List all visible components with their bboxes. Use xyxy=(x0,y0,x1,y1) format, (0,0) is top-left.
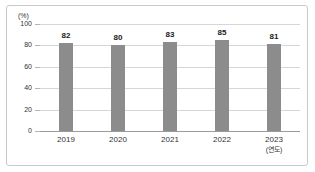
bar-value-label: 82 xyxy=(46,31,86,40)
bar-value-label: 80 xyxy=(98,33,138,42)
y-axis-tick-mark xyxy=(35,110,40,111)
bar xyxy=(111,45,125,131)
y-axis-tick-label: 0 xyxy=(0,127,32,135)
y-axis-tick-label: 40 xyxy=(0,84,32,92)
y-axis-tick-mark xyxy=(35,88,40,89)
x-axis-tick-label: 2023(연도) xyxy=(249,135,299,154)
bar-value-label: 83 xyxy=(150,30,190,39)
y-axis-tick-mark xyxy=(35,24,40,25)
x-axis-tick-label: 2019 xyxy=(41,135,91,145)
y-axis-tick-label: 100 xyxy=(0,20,32,28)
x-axis-tick-label: 2020 xyxy=(93,135,143,145)
y-axis-tick-label: 20 xyxy=(0,106,32,114)
x-axis-unit-label: (연도) xyxy=(249,145,299,154)
bar xyxy=(163,42,177,131)
bar xyxy=(59,43,73,131)
gridline xyxy=(40,24,300,25)
bar xyxy=(215,40,229,131)
y-axis-tick-mark xyxy=(35,131,40,132)
x-axis-tick-label: 2021 xyxy=(145,135,195,145)
chart-figure: (%) 020406080100822019802020832021852022… xyxy=(0,0,315,172)
y-axis-tick-mark xyxy=(35,45,40,46)
y-axis-tick-mark xyxy=(35,67,40,68)
axis-baseline xyxy=(40,131,300,132)
y-axis-tick-label: 60 xyxy=(0,63,32,71)
y-axis-tick-label: 80 xyxy=(0,41,32,49)
x-axis-tick-label: 2022 xyxy=(197,135,247,145)
y-axis-unit-label: (%) xyxy=(18,12,29,20)
bar-value-label: 81 xyxy=(254,32,294,41)
bar-value-label: 85 xyxy=(202,28,242,37)
bar xyxy=(267,44,281,131)
